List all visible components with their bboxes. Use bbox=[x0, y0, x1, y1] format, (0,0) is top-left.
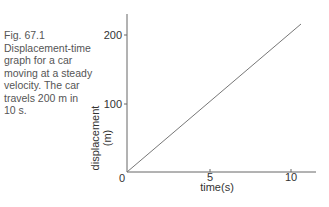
displacement-time-chart: 200 100 0 5 10 time(s) displacement (m) bbox=[0, 0, 329, 207]
origin-label: 0 bbox=[119, 172, 125, 184]
data-line bbox=[127, 24, 301, 172]
y-tick-label-200: 200 bbox=[104, 29, 122, 41]
x-axis-label: time(s) bbox=[200, 181, 234, 193]
y-tick-label-100: 100 bbox=[104, 98, 122, 110]
y-axis-label: displacement bbox=[89, 106, 101, 171]
y-axis-unit: (m) bbox=[101, 130, 113, 147]
x-tick-label-10: 10 bbox=[285, 171, 297, 183]
